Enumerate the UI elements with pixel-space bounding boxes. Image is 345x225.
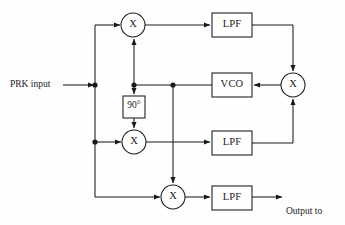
junction-dot-phase-branch <box>131 82 136 87</box>
junction-dot-lower-bus <box>92 139 97 144</box>
vco-label: VCO <box>212 78 252 90</box>
prk-input-label: PRK input <box>10 79 50 90</box>
output-decision-threshold-label: Output to decision threshold <box>286 184 344 225</box>
lpf-middle-label: LPF <box>212 136 252 148</box>
lpf-top-label: LPF <box>212 18 252 30</box>
mixer-top-label: X <box>123 18 143 30</box>
lpf-bottom-label: LPF <box>212 191 252 203</box>
junction-dot-vco-branch <box>170 82 175 87</box>
mixer-right-label: X <box>283 78 303 90</box>
junction-dot-input-bus <box>92 82 97 87</box>
output-label-line-1: Output to <box>286 206 344 217</box>
mixer-bottom-label: X <box>163 190 183 202</box>
block-diagram-canvas: PRK input X 90° X X LPF LPF LPF VCO X Ou… <box>0 0 345 225</box>
phase-shift-90-label: 90° <box>123 100 145 111</box>
mixer-middle-label: X <box>124 135 144 147</box>
